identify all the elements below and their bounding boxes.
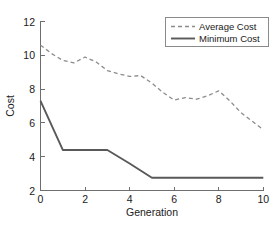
x-tick-label-2: 4 bbox=[127, 193, 133, 205]
chart-legend[interactable]: Average Cost Minimum Cost bbox=[166, 18, 269, 47]
x-tick-label-0: 0 bbox=[38, 193, 44, 205]
y-tick-label-4: 10 bbox=[23, 49, 35, 61]
cost-vs-generation-line-chart: 2 4 6 8 10 12 0 2 4 6 8 10 Generation Co… bbox=[0, 0, 279, 231]
y-axis-title: Cost bbox=[4, 95, 16, 117]
y-tick-label-3: 8 bbox=[29, 83, 35, 95]
legend-label-average-cost: Average Cost bbox=[199, 21, 257, 32]
y-tick-label-1: 4 bbox=[29, 151, 35, 163]
x-tick-label-4: 8 bbox=[216, 193, 222, 205]
legend-label-minimum-cost: Minimum Cost bbox=[199, 33, 260, 44]
y-tick-label-0: 2 bbox=[29, 185, 35, 197]
y-tick-label-5: 12 bbox=[23, 16, 35, 28]
x-tick-label-5: 10 bbox=[257, 193, 269, 205]
chart-figure: 2 4 6 8 10 12 0 2 4 6 8 10 Generation Co… bbox=[0, 0, 279, 231]
x-tick-label-1: 2 bbox=[82, 193, 88, 205]
x-axis-title: Generation bbox=[126, 206, 178, 218]
x-tick-label-3: 6 bbox=[171, 193, 177, 205]
y-tick-label-2: 6 bbox=[29, 117, 35, 129]
